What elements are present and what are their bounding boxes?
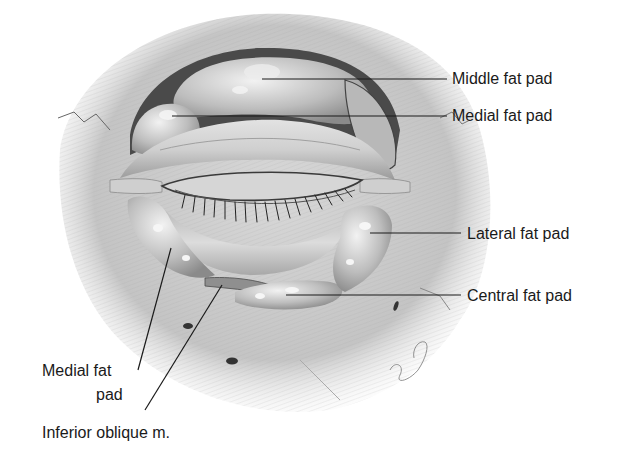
label-lateral-fat-pad: Lateral fat pad — [467, 225, 569, 243]
label-inferior-oblique: Inferior oblique m. — [42, 424, 170, 442]
label-medial-fat-pad-lower-line2: pad — [96, 386, 123, 404]
label-central-fat-pad: Central fat pad — [467, 287, 572, 305]
label-medial-fat-pad-lower-line1: Medial fat — [42, 362, 111, 380]
label-middle-fat-pad: Middle fat pad — [452, 70, 553, 88]
label-medial-fat-pad-upper: Medial fat pad — [452, 107, 553, 125]
